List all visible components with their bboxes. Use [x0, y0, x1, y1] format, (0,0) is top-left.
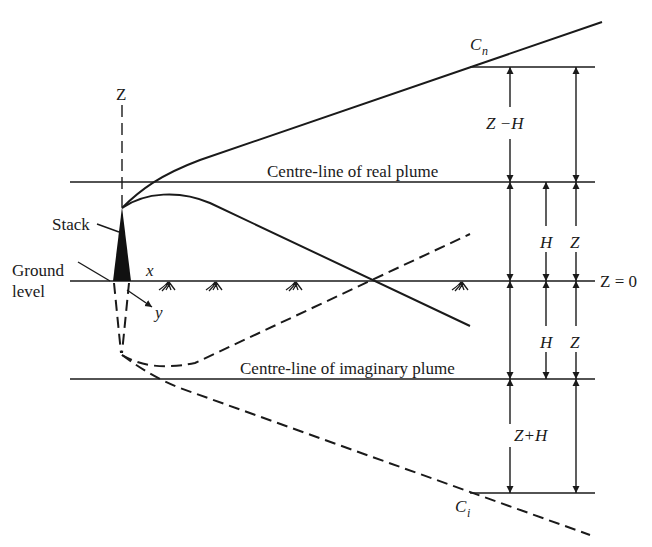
grass-icons	[159, 282, 468, 291]
svg-text:n: n	[482, 44, 488, 58]
imaginary-plume-lower-boundary	[122, 355, 590, 535]
z-lower-label: Z	[570, 333, 580, 352]
ground-leader	[78, 262, 110, 281]
imaginary-stack	[114, 283, 129, 353]
ci-label: C i	[455, 497, 470, 520]
y-axis-arrow	[127, 290, 152, 307]
z-axis: Z	[116, 85, 126, 207]
stack-leader	[97, 224, 119, 232]
svg-text:C: C	[455, 497, 467, 516]
z-plus-h-label: Z+H	[514, 426, 549, 445]
dimension-column-1: Z −H Z+H	[486, 67, 549, 493]
h-lower-label: H	[539, 333, 554, 352]
stack-icon	[113, 207, 131, 281]
dimension-column-3: Z Z	[570, 67, 580, 493]
ground-label-2: level	[12, 282, 45, 301]
y-axis-label: y	[153, 303, 163, 322]
ground-label-1: Ground	[12, 261, 64, 280]
x-axis-label: x	[145, 261, 154, 280]
z-axis-label: Z	[116, 85, 126, 104]
real-plume-lower-boundary	[122, 194, 470, 326]
plume-reflection-diagram: Z Stack Ground level x y Centre-line of …	[0, 0, 652, 547]
cn-label: C n	[470, 35, 488, 58]
z-zero-label: Z = 0	[600, 272, 637, 291]
z-upper-label: Z	[570, 233, 580, 252]
svg-text:i: i	[467, 506, 470, 520]
svg-text:C: C	[470, 35, 482, 54]
imaginary-centreline-label: Centre-line of imaginary plume	[240, 359, 455, 378]
imaginary-plume-upper-boundary	[122, 234, 470, 366]
real-centreline-label: Centre-line of real plume	[267, 162, 438, 181]
stack-label: Stack	[52, 215, 90, 234]
z-minus-h-label: Z −H	[486, 114, 525, 133]
h-upper-label: H	[539, 233, 554, 252]
